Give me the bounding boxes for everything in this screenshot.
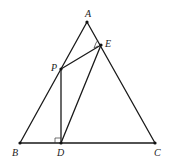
point-e: [99, 43, 102, 46]
geometry-diagram: A E P B D C: [0, 0, 172, 163]
point-c: [153, 141, 156, 144]
segment-ac: [87, 22, 155, 143]
label-b: B: [12, 148, 18, 158]
segment-ab: [20, 22, 87, 143]
label-d: D: [57, 148, 64, 158]
point-b: [18, 141, 21, 144]
point-p: [59, 67, 62, 70]
segment-de: [61, 45, 101, 143]
triangle-figure: [0, 0, 172, 163]
point-a: [85, 20, 88, 23]
point-d: [59, 141, 62, 144]
label-a: A: [85, 9, 91, 19]
label-e: E: [105, 39, 111, 49]
label-c: C: [154, 148, 161, 158]
label-p: P: [51, 63, 57, 73]
